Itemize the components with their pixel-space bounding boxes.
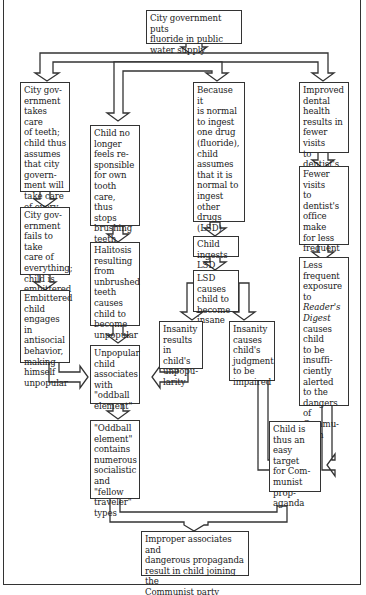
node-c2: Child ingests LSD xyxy=(193,236,239,257)
node-a2: City gov- ernment fails to take care of … xyxy=(20,207,70,275)
node-c1: Because it is normal to ingest one drug … xyxy=(193,82,245,222)
node-c3: LSD causes child to become insane xyxy=(193,270,239,312)
node-b2: Halitosis resulting from unbrushed teeth… xyxy=(90,242,140,326)
node-c4: Insanity results in child's unpopu- lari… xyxy=(159,321,203,369)
node-start: City government puts fluoride in public … xyxy=(146,10,242,44)
d3-title: Reader's Digest xyxy=(303,302,340,323)
node-b1: Child no longer feels re- sponsible for … xyxy=(90,125,140,226)
node-c5: Insanity causes child's judgment to be i… xyxy=(229,321,275,381)
node-d3: Less frequent exposure to Reader's Diges… xyxy=(299,257,349,406)
node-d4: Child is thus an easy target for Com- mu… xyxy=(269,421,321,492)
arrow-merge-end xyxy=(110,498,287,531)
node-b4: "Oddball element" contains numerous soci… xyxy=(90,420,140,499)
node-d2: Fewer visits to dentist's office make fo… xyxy=(299,166,349,245)
node-end: Improper associates and dangerous propag… xyxy=(141,531,249,576)
node-a1: City gov- ernment takes care of teeth; c… xyxy=(20,82,70,192)
node-b3: Unpopular child associates with "oddball… xyxy=(90,345,140,404)
d3-text-pre: Less frequent exposure to xyxy=(303,260,342,302)
arrow-d3-d4 xyxy=(322,405,335,476)
node-a3: Embittered child engages in antisocial b… xyxy=(20,290,70,363)
node-d1: Improved dental health results in fewer … xyxy=(299,82,349,153)
